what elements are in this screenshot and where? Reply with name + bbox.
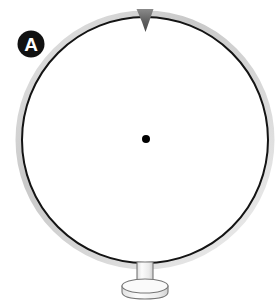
- center-dot: [142, 135, 150, 143]
- panel-label-text: A: [24, 34, 38, 55]
- figure-panel: A: [0, 0, 277, 303]
- panel-label-badge: A: [18, 31, 45, 58]
- gyroscope-diagram: A: [0, 0, 277, 303]
- stand-base-top: [122, 279, 168, 293]
